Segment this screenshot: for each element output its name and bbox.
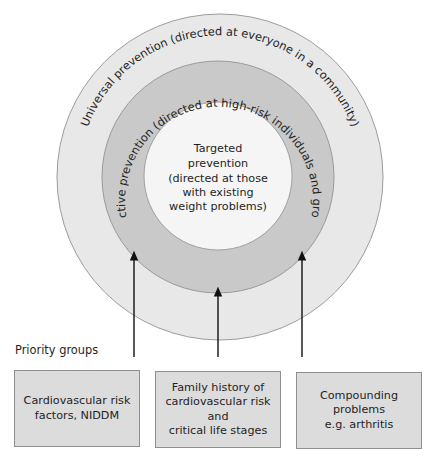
targeted-line-3: (directed at those <box>168 172 268 185</box>
priority-group-text: Family history of cardiovascular risk an… <box>159 381 277 439</box>
targeted-line-2: prevention <box>188 157 248 170</box>
targeted-line-1: Targeted <box>193 142 243 155</box>
targeted-line-4: with existing <box>182 186 253 199</box>
targeted-line-5: weight problems) <box>169 200 267 213</box>
priority-group-box-family-history: Family history of cardiovascular risk an… <box>155 371 281 448</box>
priority-groups-label: Priority groups <box>15 343 98 357</box>
priority-group-box-cardiovascular: Cardiovascular risk factors, NIDDM <box>14 370 140 447</box>
priority-group-box-compounding: Compounding problems e.g. arthritis <box>296 372 422 449</box>
priority-group-text: Cardiovascular risk factors, NIDDM <box>24 394 131 423</box>
priority-group-text: Compounding problems e.g. arthritis <box>320 389 398 433</box>
